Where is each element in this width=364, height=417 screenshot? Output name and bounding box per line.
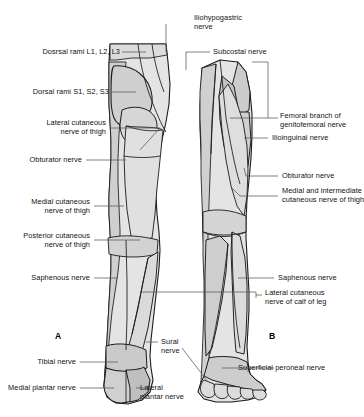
- label-lcnt-line2: nerve of thigh: [61, 127, 106, 136]
- label-lpn-line1: Lateral: [140, 383, 163, 392]
- label-mic-line2: cutaneous nerve of thigh: [282, 195, 364, 204]
- label-iliohypogastric-line1: Iliohypogastric: [194, 13, 242, 22]
- label-subcostal-nerve: Subcostal nerve: [213, 47, 267, 56]
- label-lcnc-line1: Lateral cutaneous: [265, 288, 325, 297]
- label-lateral-cutaneous-nerve-of-thigh: Lateral cutaneousnerve of thigh: [6, 118, 106, 136]
- label-fbg-line2: genitofemoral nerve: [280, 120, 346, 129]
- figure-b-anterior: [198, 60, 266, 402]
- label-medial-cutaneous-nerve-of-thigh: Medial cutaneousnerve of thigh: [6, 197, 90, 215]
- label-lcnc-line2: nerve of calf of leg: [265, 297, 326, 306]
- label-sural-nerve: Suralnerve: [161, 337, 180, 355]
- label-lateral-cutaneous-nerve-of-calf: Lateral cutaneousnerve of calf of leg: [265, 288, 326, 306]
- label-lcnt-line1: Lateral cutaneous: [46, 118, 106, 127]
- label-iliohypogastric-nerve: Iliohypogastricnerve: [194, 13, 242, 31]
- label-medial-plantar-nerve: Medial plantar nerve: [2, 383, 76, 392]
- panel-label-a: A: [55, 331, 61, 341]
- label-mic-line1: Medial and intermediate: [282, 186, 362, 195]
- label-pcnt-line1: Posterior cutaneous: [23, 231, 90, 240]
- label-lateral-plantar-nerve: Lateralplantar nerve: [140, 383, 184, 401]
- label-ilioinguinal-nerve: Ilioinguinal nerve: [272, 133, 328, 142]
- panel-label-b: B: [269, 331, 275, 341]
- region-b-knee-band: [203, 210, 246, 237]
- label-tibial-nerve: Tibial nerve: [6, 357, 76, 366]
- label-dorsal-rami-sacral: Dorsal rami S1, S2, S3: [6, 87, 109, 96]
- label-posterior-cutaneous-nerve-of-thigh: Posterior cutaneousnerve of thigh: [6, 231, 90, 249]
- label-femoral-branch-genitofemoral: Femoral branch ofgenitofemoral nerve: [280, 111, 346, 129]
- label-sural-line2: nerve: [161, 346, 180, 355]
- label-saphenous-nerve-left: Saphenous nerve: [6, 273, 90, 282]
- label-dorsal-rami-lumbar: Dosrsal rami L1, L2, L3: [6, 47, 120, 56]
- label-mcnt-line1: Medial cutaneous: [31, 197, 90, 206]
- region-a-knee-band: [108, 236, 158, 257]
- label-mcnt-line2: nerve of thigh: [45, 206, 90, 215]
- label-medial-intermediate-cutaneous: Medial and intermediatecutaneous nerve o…: [282, 186, 364, 204]
- label-saphenous-nerve-right: Saphenous nerve: [278, 273, 337, 282]
- label-fbg-line1: Femoral branch of: [280, 111, 341, 120]
- label-sural-line1: Sural: [161, 337, 179, 346]
- label-superficial-peroneal-nerve: Superficial peroneal nerve: [238, 363, 325, 372]
- label-iliohypogastric-line2: nerve: [194, 22, 213, 31]
- label-pcnt-line2: nerve of thigh: [45, 240, 90, 249]
- label-obturator-nerve-left: Obturator nerve: [6, 155, 82, 164]
- label-obturator-nerve-right: Obturator nerve: [282, 171, 335, 180]
- label-lpn-line2: plantar nerve: [140, 392, 184, 401]
